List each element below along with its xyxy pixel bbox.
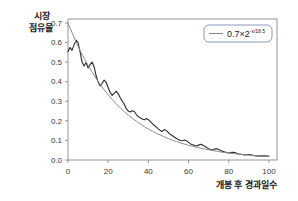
- x-tick-label: 80: [224, 167, 233, 176]
- x-tick-label: 20: [104, 167, 113, 176]
- x-tick-label: 0: [66, 167, 71, 176]
- y-tick-label: 0.3: [51, 97, 63, 106]
- y-tick-label: 0.6: [51, 38, 63, 47]
- y-tick-label: 0.1: [51, 136, 63, 145]
- y-tick-label: 0.0: [51, 156, 63, 165]
- y-axis-label-line2: 점유율: [29, 22, 53, 33]
- x-tick-label: 60: [184, 167, 193, 176]
- legend: 0.7×2-x/18.5: [204, 25, 272, 42]
- y-axis-label-line1: 시장: [34, 10, 51, 21]
- y-tick-label: 0.5: [51, 58, 63, 67]
- x-axis-label: 개봉 후 경과일수: [216, 179, 277, 190]
- legend-label-base: 0.7×2: [227, 29, 250, 39]
- y-tick-label: 0.4: [51, 77, 63, 86]
- legend-label-exponent: -x/18.5: [250, 28, 266, 34]
- x-tick-label: 100: [262, 167, 276, 176]
- chart-figure: 0.00.10.20.30.40.50.60.7 020406080100 시장…: [0, 0, 298, 201]
- y-tick-label: 0.2: [51, 117, 63, 126]
- x-tick-label: 40: [144, 167, 153, 176]
